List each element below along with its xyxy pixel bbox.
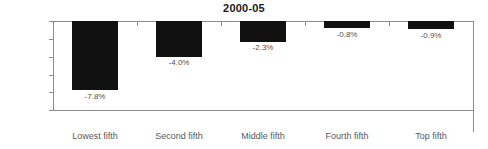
bar-chart: 2000-05 0% -2% -4% -6% -8% -10% -7.8% -4… [0,0,488,149]
chart-title: 2000-05 [0,2,488,15]
bar-second-fifth [156,21,202,57]
category-label-top-fifth: Top fifth [391,131,471,142]
bar-lowest-fifth [72,21,118,90]
plot-frame-right [473,21,474,132]
category-label-middle-fifth: Middle fifth [223,131,303,142]
plot-frame-bottom [53,110,474,111]
y-tick-mark-1 [49,39,53,40]
y-axis-line [53,21,54,111]
bar-value-label-fourth-fifth: -0.8% [317,30,377,40]
bar-fourth-fifth [324,21,370,28]
y-tick-mark-3 [49,75,53,76]
y-tick-mark-0 [49,21,53,22]
bar-top-fifth [408,21,454,29]
x-tick-mark-3 [305,22,306,26]
bar-middle-fifth [240,21,286,42]
y-tick-mark-5 [49,110,53,111]
x-tick-mark-1 [137,22,138,26]
category-label-lowest-fifth: Lowest fifth [55,131,135,142]
x-tick-mark-2 [221,22,222,26]
bar-value-label-middle-fifth: -2.3% [233,43,293,53]
x-tick-mark-4 [389,22,390,26]
y-tick-mark-4 [49,92,53,93]
bar-value-label-top-fifth: -0.9% [401,31,461,41]
bar-value-label-second-fifth: -4.0% [149,58,209,68]
category-label-fourth-fifth: Fourth fifth [307,131,387,142]
y-tick-mark-2 [49,57,53,58]
category-label-second-fifth: Second fifth [139,131,219,142]
bar-value-label-lowest-fifth: -7.8% [65,92,125,102]
